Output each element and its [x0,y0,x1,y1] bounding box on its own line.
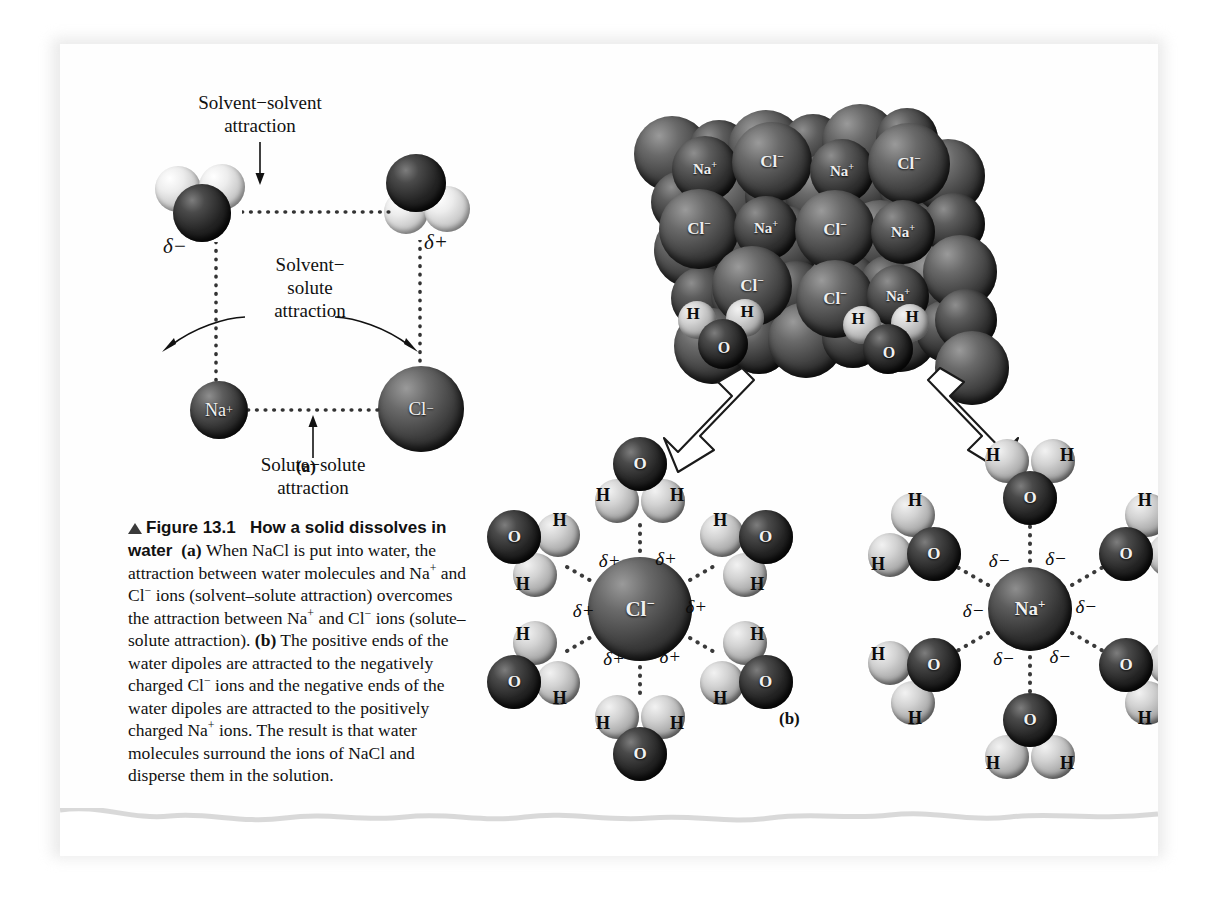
nacl-crystal-lattice: Na+Cl−Na+Cl−Cl−Na+Cl−Na+Cl−Cl−Na+HHOHHO [580,44,1000,384]
lattice-chloride-label: Cl− [687,219,711,239]
lattice-sodium-label: Na+ [693,161,717,178]
water-o-label: O [1120,655,1133,675]
water-h-label: H [596,485,610,506]
partial-charge-label: δ− [993,648,1015,670]
surface-water-o-label: O [883,344,895,362]
partial-charge-label: δ− [963,600,985,622]
lattice-ion-charge: − [777,150,784,163]
lattice-chloride-label: Cl− [823,289,847,309]
hydrated-chloride-cluster: Cl−δ+HHOδ+HHOδ+HHOδ+HHOδ+HHOδ+HHO [460,444,820,774]
lattice-ion-charge: − [914,152,921,165]
attraction-dotted-line [634,661,646,699]
water-h-label: H [596,713,610,734]
partial-charge-label: δ+ [659,646,681,668]
attraction-dotted-line [684,561,719,586]
water-h-label: H [908,708,922,729]
lattice-ion-charge: − [840,218,847,231]
attraction-dotted-line [561,632,596,657]
surface-water-h-label: H [686,304,699,324]
water-o-label: O [633,744,646,764]
panel-b-diagram: Na+Cl−Na+Cl−Cl−Na+Cl−Na+Cl−Cl−Na+HHOHHO … [60,44,1158,850]
lattice-ion-charge: + [772,218,778,229]
partial-charge-label: δ− [1045,548,1067,570]
lattice-ion-charge: + [904,286,910,297]
water-o-label: O [927,544,940,564]
partial-charge-label: δ− [1075,596,1097,618]
lattice-ion-charge: + [909,222,915,233]
water-h-label: H [750,574,764,595]
water-h-label: H [1138,708,1152,729]
water-o-label: O [508,527,521,547]
attraction-dotted-line [1024,519,1036,567]
lattice-ion-charge: + [711,159,717,170]
cluster-ion-charge: + [1038,596,1045,611]
water-h-label: H [750,623,764,644]
cluster-ion-charge: − [646,595,654,611]
partial-charge-label: δ+ [599,550,621,572]
water-h-label: H [986,445,1000,466]
water-h-label: H [670,485,684,506]
page-deckled-edge [60,808,1158,856]
water-o-label: O [1120,544,1133,564]
lattice-chloride-label: Cl− [823,220,847,240]
lattice-chloride-label: Cl− [760,152,784,172]
water-o-label: O [1023,710,1036,730]
partial-charge-label: δ− [989,550,1011,572]
water-h-label: H [1138,489,1152,510]
surface-water-o-label: O [718,339,730,357]
surface-water-h-label: H [851,309,864,329]
attraction-dotted-line [561,561,596,586]
partial-charge-label: δ+ [685,596,707,618]
lattice-sodium-label: Na+ [830,163,854,180]
water-h-label: H [516,623,530,644]
water-h-label: H [670,713,684,734]
water-h-label: H [871,643,885,664]
scanned-textbook-page: Solvent−solvent attraction δ− δ+ [60,44,1158,850]
surface-water-h-label: H [740,302,753,322]
attraction-dotted-line [1024,651,1036,699]
surface-water-h-label: H [905,307,918,327]
lattice-ion-charge: − [840,287,847,300]
partial-charge-label: δ+ [603,648,625,670]
lattice-sodium-label: Na+ [754,220,778,237]
attraction-dotted-line [684,632,719,657]
lattice-sodium-label: Na+ [891,224,915,241]
water-h-label: H [713,688,727,709]
water-h-label: H [908,489,922,510]
water-o-label: O [759,527,772,547]
panel-b-label: (b) [779,709,800,729]
partial-charge-label: δ+ [573,600,595,622]
cluster-sodium-label: Na+ [1015,598,1046,620]
partial-charge-label: δ+ [655,548,677,570]
hydrated-sodium-cluster: Na+δ−HHOδ−HHOδ−HHOδ−HHOδ−HHOδ−HHO [850,444,1158,774]
water-h-label: H [516,574,530,595]
lattice-chloride-label: Cl− [897,154,921,174]
lattice-ion-charge: − [757,274,764,287]
lattice-ion-charge: − [704,217,711,230]
water-o-label: O [759,672,772,692]
water-h-label: H [713,509,727,530]
water-o-label: O [1023,488,1036,508]
cluster-chloride-label: Cl− [625,597,654,622]
water-h-label: H [1060,753,1074,774]
water-o-label: O [508,672,521,692]
water-h-label: H [553,509,567,530]
water-o-label: O [927,655,940,675]
water-o-label: O [633,454,646,474]
water-h-label: H [1060,445,1074,466]
lattice-ion-charge: + [848,161,854,172]
lattice-sodium-label: Na+ [886,288,910,305]
water-h-label: H [986,753,1000,774]
water-h-label: H [553,688,567,709]
partial-charge-label: δ− [1049,646,1071,668]
water-h-label: H [871,554,885,575]
attraction-dotted-line [634,519,646,557]
lattice-chloride-label: Cl− [740,276,764,296]
